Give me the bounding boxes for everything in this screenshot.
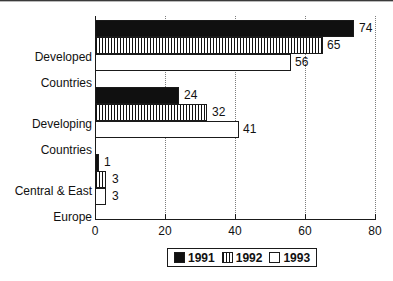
legend-item-1991[interactable]: 1991 [174,251,215,265]
tick-mark-20 [165,214,166,220]
category-label-cee-line2: Europe [53,210,92,224]
tick-mark-40 [235,214,236,220]
legend-label-1991: 1991 [188,251,215,265]
category-label-developing-line1: Developing [32,117,92,131]
legend-item-1992[interactable]: 1992 [222,251,263,265]
category-label-developing: Developing Countries [0,105,92,157]
bar-value-developing-1992: 32 [212,104,225,121]
gridline-80 [375,16,376,219]
category-label-cee-line1: Central & East [15,184,92,198]
y-axis-line [95,16,96,220]
legend-label-1992: 1992 [236,251,263,265]
tick-label-40: 40 [228,224,241,238]
bar-developed-1991[interactable] [95,20,354,37]
solid-black-swatch-icon [174,252,185,263]
bar-cee-1992[interactable] [95,171,106,188]
tick-label-20: 20 [158,224,171,238]
bar-developing-1993[interactable] [95,121,239,138]
bar-value-developing-1991: 24 [184,87,197,104]
legend-label-1993: 1993 [283,251,310,265]
tick-label-0: 0 [92,224,99,238]
white-swatch-icon [269,252,280,263]
legend-item-1993[interactable]: 1993 [269,251,310,265]
hatched-swatch-icon [222,252,233,263]
bar-value-cee-1993: 3 [112,188,119,205]
horizontal-bar-chart: 74 65 56 24 32 41 1 3 3 Developed Countr… [0,0,393,281]
bar-value-developed-1992: 65 [327,37,340,54]
category-label-developed-line1: Developed [35,50,92,64]
tick-mark-60 [305,214,306,220]
category-label-developed-line2: Countries [41,76,92,90]
plot-area: 74 65 56 24 32 41 1 3 3 [95,16,375,219]
bar-value-cee-1991: 1 [104,154,111,171]
tick-mark-0 [95,214,96,220]
bar-value-developed-1991: 74 [359,20,372,37]
bar-developing-1991[interactable] [95,87,179,104]
tick-label-60: 60 [298,224,311,238]
bar-developed-1993[interactable] [95,54,291,71]
tick-mark-80 [375,214,376,220]
bar-developing-1992[interactable] [95,104,207,121]
bar-value-cee-1992: 3 [112,171,119,188]
bar-cee-1993[interactable] [95,188,106,205]
category-label-cee: Central & East Europe [0,172,92,224]
bar-value-developing-1993: 41 [243,121,256,138]
category-label-developed: Developed Countries [0,38,92,90]
category-label-developing-line2: Countries [41,143,92,157]
tick-label-80: 80 [368,224,381,238]
bar-developed-1992[interactable] [95,37,323,54]
bar-value-developed-1993: 56 [295,54,308,71]
category-axis-labels: Developed Countries Developing Countries… [0,16,92,219]
chart-legend: 1991 1992 1993 [167,248,317,267]
